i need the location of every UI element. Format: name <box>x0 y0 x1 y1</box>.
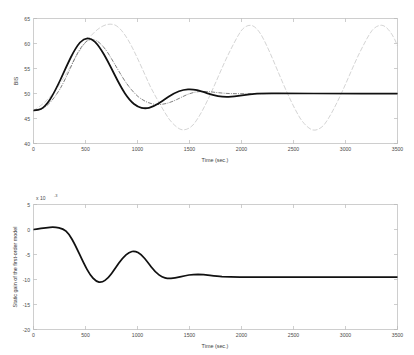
x-tick-labels-bottom: 0 500 1000 1500 2000 2500 3000 3500 <box>32 332 403 338</box>
series-static-gain-curve <box>34 227 398 282</box>
x-axis-label: Time (sec.) <box>202 343 229 349</box>
y-tick-label: -20 <box>23 327 31 333</box>
y-tick-label: -15 <box>23 302 31 308</box>
y-exponent-mantissa: x 10 <box>36 195 46 201</box>
series-oscillation-curve <box>34 24 398 130</box>
y-axis-label: Static gain of the first-order model <box>12 227 18 308</box>
y-tick-labels-bottom: 5 0 -5 -10 -15 -20 <box>23 202 31 333</box>
x-tick-label: 2000 <box>236 332 247 338</box>
x-tick-labels-top: 0 500 1000 1500 2000 2500 3000 3500 <box>32 146 403 152</box>
x-tick-label: 2500 <box>288 146 299 152</box>
y-tick-label: 55 <box>24 66 30 72</box>
static-gain-plot-svg: x 10 -3 5 0 -5 - <box>0 178 414 355</box>
x-tick-label: 3500 <box>392 146 403 152</box>
y-ticks-top <box>34 19 398 144</box>
y-ticks-bottom <box>34 205 398 330</box>
y-exponent-power: -3 <box>54 193 57 198</box>
x-tick-label: 3500 <box>392 332 403 338</box>
figure-root: 65 60 55 50 45 40 <box>0 0 414 355</box>
bis-plot-svg: 65 60 55 50 45 40 <box>0 0 414 178</box>
chart-panel-static-gain: x 10 -3 5 0 -5 - <box>0 178 414 355</box>
chart-panel-bis: 65 60 55 50 45 40 <box>0 0 414 178</box>
x-tick-label: 500 <box>81 332 90 338</box>
axes-frame-bottom <box>34 205 398 330</box>
x-axis-label: Time (sec.) <box>202 157 229 163</box>
y-tick-label: 45 <box>24 116 30 122</box>
series-main-curve <box>34 38 398 110</box>
y-axis-label: BIS <box>13 76 19 85</box>
y-tick-label: -10 <box>23 277 31 283</box>
y-tick-label: 50 <box>24 91 30 97</box>
y-exponent-label: x 10 -3 <box>36 193 57 202</box>
x-tick-label: 0 <box>32 146 35 152</box>
x-tick-label: 1500 <box>184 146 195 152</box>
series-dashdot-curve <box>34 40 398 111</box>
x-tick-label: 3000 <box>340 146 351 152</box>
y-tick-label: 5 <box>27 202 30 208</box>
x-tick-label: 1000 <box>132 146 143 152</box>
y-tick-label: 60 <box>24 41 30 47</box>
axes-frame-top <box>34 19 398 144</box>
x-tick-label: 1000 <box>132 332 143 338</box>
x-ticks-top <box>34 19 398 144</box>
x-tick-label: 1500 <box>184 332 195 338</box>
y-tick-label: -5 <box>25 252 30 258</box>
y-tick-label: 0 <box>27 227 30 233</box>
x-tick-label: 3000 <box>340 332 351 338</box>
x-tick-label: 2500 <box>288 332 299 338</box>
x-tick-label: 2000 <box>236 146 247 152</box>
x-ticks-bottom <box>34 205 398 330</box>
y-tick-labels-top: 65 60 55 50 45 40 <box>24 16 30 147</box>
y-tick-label: 65 <box>24 16 30 22</box>
y-tick-label: 40 <box>24 141 30 147</box>
x-tick-label: 500 <box>81 146 90 152</box>
x-tick-label: 0 <box>32 332 35 338</box>
